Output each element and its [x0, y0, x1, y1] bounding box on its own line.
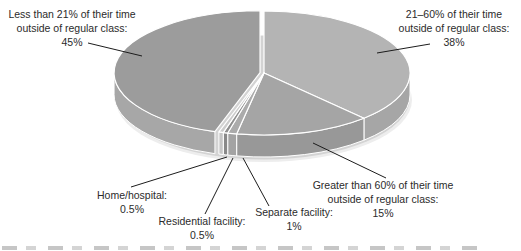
- callout-pct: 38%: [389, 35, 519, 49]
- callout-text: Residential facility:: [147, 214, 257, 228]
- callout-text: outside of regular class:: [311, 192, 455, 206]
- callout-text: Home/hospital:: [84, 188, 180, 202]
- callout-pct: 15%: [311, 206, 455, 220]
- leader-line-separate: [243, 158, 269, 206]
- pie-slice-side-2: [228, 133, 237, 156]
- pie-slices: [114, 11, 412, 162]
- callout-pct: 1%: [245, 219, 343, 233]
- callout-pct: 0.5%: [147, 228, 257, 242]
- leader-line-home: [131, 157, 227, 187]
- callout-home-hospital: Home/hospital: 0.5%: [84, 188, 180, 216]
- callout-text: Greater than 60% of their time: [311, 178, 455, 192]
- callout-text: 21–60% of their time: [389, 7, 519, 21]
- callout-residential-facility: Residential facility: 0.5%: [147, 214, 257, 242]
- callout-less-than-21: Less than 21% of their time outside of r…: [2, 7, 142, 49]
- pie-slice-side-3: [223, 133, 227, 156]
- callout-text: Less than 21% of their time: [2, 7, 142, 21]
- callout-text: outside of regular class:: [389, 21, 519, 35]
- callout-text: outside of regular class:: [2, 21, 142, 35]
- callout-greater-than-60: Greater than 60% of their time outside o…: [311, 178, 455, 220]
- cropped-caption-line: [2, 246, 480, 250]
- leader-line-residential: [205, 158, 233, 214]
- figure-pie-chart: Less than 21% of their time outside of r…: [0, 0, 521, 251]
- callout-21-60: 21–60% of their time outside of regular …: [389, 7, 519, 49]
- pie-slice-side-4: [219, 132, 223, 155]
- callout-pct: 45%: [2, 35, 142, 49]
